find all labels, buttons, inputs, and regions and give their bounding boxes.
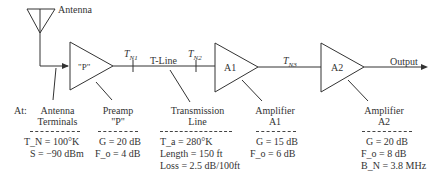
stage-preamp-param: G = 20 dB — [99, 136, 141, 147]
output-label: Output — [390, 56, 418, 67]
stage-a2-param: G = 20 dB — [366, 136, 408, 147]
stage-antenna-param: T_N = 100°K — [24, 136, 79, 147]
stage-a1-title: AmplifierA1 — [250, 105, 300, 127]
stage-antenna-param: S = −90 dBm — [30, 148, 84, 159]
stage-tline-param: T_a = 280°K — [160, 136, 212, 147]
tline-label: T-Line — [150, 55, 177, 66]
stage-a2-title: AmplifierA2 — [359, 105, 409, 127]
arrow-icon — [62, 63, 69, 69]
preamp-triangle — [70, 42, 113, 90]
tn2-label: TN2 — [188, 48, 202, 64]
antenna-icon — [27, 9, 55, 33]
stage-preamp-param: F_o = 4 dB — [95, 148, 140, 159]
stage-tline-title: TransmissionLine — [160, 105, 235, 127]
amplifier-a1-triangle — [215, 43, 258, 92]
stage-a2-param: B_N = 3.8 MHz — [361, 160, 426, 171]
preamp-block-label: "P" — [78, 62, 90, 73]
a1-block-label: A1 — [224, 62, 236, 73]
tn3-label: TN3 — [283, 55, 297, 71]
stage-a1-param: G = 15 dB — [256, 136, 298, 147]
stage-a1-param: F_o = 6 dB — [250, 148, 295, 159]
stage-tline-param: Length = 150 ft — [160, 148, 223, 159]
a2-block-label: A2 — [331, 62, 343, 73]
stage-antenna-title: AntennaTerminals — [30, 105, 85, 127]
antenna-label: Antenna — [58, 4, 92, 15]
at-label: At: — [14, 105, 27, 116]
stage-preamp-title: Preamp"P" — [93, 105, 143, 127]
tn1-label: TN1 — [124, 48, 138, 64]
output-arrow-icon — [421, 64, 428, 70]
stage-a2-param: F_o = 8 dB — [361, 148, 406, 159]
stage-tline-param: Loss = 2.5 dB/100ft — [160, 160, 240, 171]
